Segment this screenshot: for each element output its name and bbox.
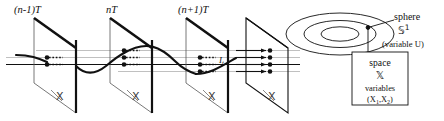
dot-p1-b: [45, 62, 50, 67]
sphere-line-3: (variable U): [382, 39, 424, 49]
dot-p2-a: [122, 48, 127, 53]
sphere-line-2: 𝕊1: [398, 23, 410, 36]
dot-p2-b: [122, 55, 127, 60]
sphere-line-1: sphere: [394, 11, 421, 22]
plane-n: X: [110, 18, 152, 113]
dot-p2-c: [122, 62, 127, 67]
sphere-ring-outer: [286, 13, 394, 55]
dot-p3-b: [198, 62, 203, 67]
sphere-annotation: sphere 𝕊1 (variable U): [382, 11, 424, 49]
plane-n-minus-1: X: [34, 18, 76, 113]
dot-p3-a: [198, 55, 203, 60]
space-annotation-box: space 𝕏 variables (X1,X2): [352, 52, 408, 105]
dot-p4-c: [268, 62, 273, 67]
current-label: It: [218, 55, 224, 66]
dot-p1-a: [45, 55, 50, 60]
sphere-ring-mid: [304, 21, 376, 48]
current-label-group: It: [218, 55, 224, 66]
space-box-line-4: (X1,X2): [367, 95, 393, 105]
label-t-cur: nT: [106, 4, 118, 15]
space-box-glyph: 𝕏: [376, 69, 384, 81]
plane-final: X: [246, 18, 288, 113]
label-t-prev: (n-1)T: [14, 4, 42, 16]
label-t-next: (n+1)T: [178, 4, 210, 16]
sphere-rings: [286, 13, 394, 55]
dot-p4-a: [268, 48, 273, 53]
space-box-line-1: space: [369, 57, 390, 68]
plane4-arrows: [236, 51, 266, 72]
dot-p3-c: [198, 69, 203, 74]
dot-p4-b: [268, 55, 273, 60]
time-tick-labels: (n-1)T nT (n+1)T: [14, 4, 210, 16]
dot-p4-d: [268, 69, 273, 74]
signal-sphere-space-diagram: X X X X: [0, 0, 444, 121]
space-box-line-3: variables: [365, 84, 395, 93]
sample-dots: [45, 48, 273, 74]
diagram-canvas: X X X X: [0, 0, 444, 121]
sphere-ring-inner: [321, 27, 359, 41]
